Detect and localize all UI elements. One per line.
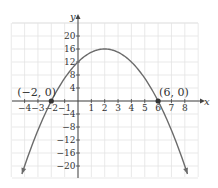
y-tick-label: 16 (64, 44, 76, 54)
y-tick-label: −16 (57, 148, 76, 158)
intercept-label: (6, 0) (159, 86, 189, 99)
intercept-dot (49, 98, 54, 103)
x-tick-label: 5 (142, 103, 148, 113)
y-tick-label: 4 (70, 83, 76, 93)
x-tick-label: 4 (129, 103, 135, 113)
x-tick-label: 1 (88, 103, 94, 113)
x-tick-label: 2 (102, 103, 108, 113)
x-tick-label: −3 (31, 103, 45, 113)
y-axis-arrow-icon (76, 14, 81, 19)
y-tick-label: −4 (62, 109, 76, 119)
y-axis-label: y (69, 11, 76, 22)
x-tick-label: 7 (169, 103, 175, 113)
x-tick-label: 3 (115, 103, 121, 113)
y-tick-label: −20 (57, 161, 76, 171)
y-tick-label: −12 (57, 135, 76, 145)
y-tick-label: −8 (62, 122, 76, 132)
x-tick-label: −4 (18, 103, 32, 113)
y-tick-label: 20 (64, 31, 76, 41)
y-tick-label: 8 (70, 70, 76, 80)
intercept-label: (−2, 0) (17, 86, 56, 99)
parabola-chart: −4−3−2−11234567820161284−4−8−12−16−20 (−… (0, 0, 218, 188)
intercept-dot (156, 98, 161, 103)
x-tick-label: 8 (182, 103, 188, 113)
x-axis-label: x (204, 96, 210, 107)
